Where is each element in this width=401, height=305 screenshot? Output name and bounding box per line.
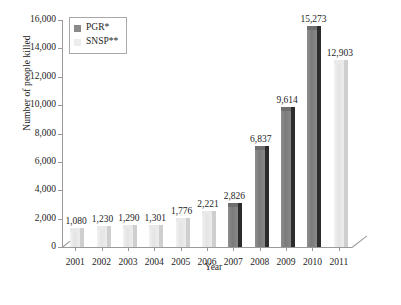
y-axis-tick-label: 14,000 xyxy=(30,44,56,54)
bar-value-label-2007: 2,826 xyxy=(224,191,245,201)
bar-side-face xyxy=(265,146,269,247)
bar-2005[interactable] xyxy=(176,222,186,247)
x-axis-tick xyxy=(339,247,340,251)
bar-value-label-2008: 6,837 xyxy=(250,135,271,145)
bar-front-face xyxy=(149,229,159,247)
x-axis-tick xyxy=(286,247,287,251)
bar-front-face xyxy=(281,111,291,247)
bar-value-label-2003: 1,290 xyxy=(118,213,139,223)
bar-2003[interactable] xyxy=(123,229,133,247)
bar-front-face xyxy=(255,150,265,247)
y-axis-tick xyxy=(58,134,62,135)
bar-front-face xyxy=(334,64,344,247)
y-axis-tick xyxy=(58,219,62,220)
y-axis-tick-label: 12,000 xyxy=(30,72,56,82)
bar-side-face xyxy=(344,60,348,247)
bar-value-label-2001: 1,080 xyxy=(65,216,86,226)
bar-2010[interactable] xyxy=(307,30,317,247)
chart-figure: Number of people killed 02,0004,0006,000… xyxy=(0,0,401,305)
y-axis-line xyxy=(62,20,63,247)
bar-side-face xyxy=(238,203,242,247)
y-axis-tick xyxy=(58,77,62,78)
bar-front-face xyxy=(176,222,186,247)
y-axis-tick xyxy=(58,190,62,191)
bar-value-label-2009: 9,614 xyxy=(276,95,297,105)
bar-front-face xyxy=(228,207,238,247)
bar-side-face xyxy=(317,26,321,247)
bar-side-face xyxy=(212,211,216,247)
x-axis-tick xyxy=(312,247,313,251)
bar-side-face xyxy=(107,226,111,247)
bar-side-face xyxy=(186,218,190,247)
bar-value-label-2002: 1,230 xyxy=(92,214,113,224)
bar-2011[interactable] xyxy=(334,64,344,247)
axis-depth-line-right xyxy=(352,235,368,247)
bar-side-face xyxy=(80,228,84,247)
y-axis-tick-label: 0 xyxy=(51,242,56,252)
y-axis-tick xyxy=(58,247,62,248)
legend-swatch-icon-snsp xyxy=(74,39,81,46)
bar-front-face xyxy=(202,215,212,247)
y-axis-tick xyxy=(58,20,62,21)
legend-entry-pgr[interactable]: PGR* xyxy=(74,21,118,35)
legend-swatch-icon-pgr xyxy=(74,25,81,32)
y-axis-tick-label: 16,000 xyxy=(30,15,56,25)
x-axis-tick xyxy=(128,247,129,251)
bar-front-face xyxy=(97,230,107,247)
bar-front-face xyxy=(123,229,133,247)
legend: PGR* SNSP** xyxy=(69,17,127,54)
bar-side-face xyxy=(159,225,163,247)
y-axis-tick-label: 10,000 xyxy=(30,100,56,110)
bar-front-face xyxy=(70,232,80,247)
bar-side-face xyxy=(291,107,295,247)
bar-2009[interactable] xyxy=(281,111,291,247)
bar-2004[interactable] xyxy=(149,229,159,247)
y-axis-title: Number of people killed xyxy=(22,0,32,168)
bar-value-label-2005: 1,776 xyxy=(171,206,192,216)
bar-2007[interactable] xyxy=(228,207,238,247)
x-axis-tick xyxy=(181,247,182,251)
x-axis-tick xyxy=(75,247,76,251)
x-axis-tick xyxy=(233,247,234,251)
y-axis-tick xyxy=(58,162,62,163)
y-axis-tick-label: 6,000 xyxy=(35,157,56,167)
x-axis-title: Year xyxy=(62,262,365,272)
bar-value-label-2004: 1,301 xyxy=(145,213,166,223)
y-axis-tick xyxy=(58,48,62,49)
y-axis-tick-label: 4,000 xyxy=(35,186,56,196)
x-axis-tick xyxy=(207,247,208,251)
bar-2006[interactable] xyxy=(202,215,212,247)
bar-2001[interactable] xyxy=(70,232,80,247)
x-axis-tick xyxy=(154,247,155,251)
bar-value-label-2011: 12,903 xyxy=(327,48,353,58)
y-axis-tick-label: 2,000 xyxy=(35,214,56,224)
legend-label-pgr: PGR* xyxy=(86,23,109,33)
legend-entry-snsp[interactable]: SNSP** xyxy=(74,35,118,49)
bar-front-face xyxy=(307,30,317,247)
bar-value-label-2010: 15,273 xyxy=(300,15,326,25)
plot-area: 02,0004,0006,0008,00010,00012,00014,0001… xyxy=(62,20,365,247)
bar-side-face xyxy=(133,225,137,247)
x-axis-tick xyxy=(102,247,103,251)
y-axis-tick-label: 8,000 xyxy=(35,129,56,139)
bar-2008[interactable] xyxy=(255,150,265,247)
bar-2002[interactable] xyxy=(97,230,107,247)
x-axis-tick xyxy=(260,247,261,251)
y-axis-tick xyxy=(58,105,62,106)
bar-value-label-2006: 2,221 xyxy=(197,200,218,210)
legend-label-snsp: SNSP** xyxy=(86,37,118,47)
